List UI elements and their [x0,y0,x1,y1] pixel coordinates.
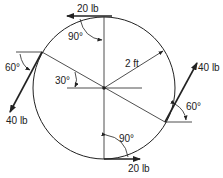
diameter-line [42,52,165,122]
bottom-angle-label: 90° [119,133,134,144]
top-angle-label: 90° [68,31,83,42]
diameter-angle-label: 30° [55,75,70,86]
bottom-force-label: 20 lb [128,163,150,174]
left-angle-arc [20,54,30,70]
radius-label: 2 ft [125,58,139,69]
left-force-arrow [10,52,42,112]
force-diagram: 2 ft 20 lb 90° 20 lb 90° 40 lb 60° 30° 4… [0,0,223,178]
top-angle-arc [80,19,102,40]
right-angle-arc [175,104,186,120]
right-force-arrow [165,63,197,122]
top-force-label: 20 lb [77,3,99,14]
right-angle-label: 60° [186,101,201,112]
right-force-label: 40 lb [198,62,220,73]
diameter-angle-arc [75,72,77,87]
left-angle-label: 60° [5,62,20,73]
radius-line [104,51,163,88]
left-force-label: 40 lb [6,115,28,126]
